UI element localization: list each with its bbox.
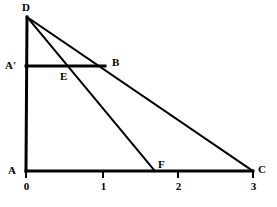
axis-tick-label-3: 3 — [249, 181, 258, 192]
point-label-Ap: A' — [5, 60, 16, 71]
point-label-B: B — [112, 57, 119, 68]
axis-tick-label-1: 1 — [99, 181, 108, 192]
axis-tick-label-2: 2 — [174, 181, 183, 192]
line-D-C — [27, 17, 253, 171]
line-D-F — [27, 17, 155, 171]
point-label-F: F — [158, 159, 165, 170]
point-label-C: C — [258, 164, 266, 175]
point-label-A: A — [8, 165, 16, 176]
axis-tick-label-0: 0 — [22, 181, 31, 192]
segments-group — [26, 17, 253, 171]
point-label-D: D — [22, 2, 30, 13]
vertical-axis-AD — [26, 17, 27, 171]
diagram-canvas — [0, 0, 277, 207]
geometry-figure: DAA'BEFC 0123 — [0, 0, 277, 207]
point-label-E: E — [60, 71, 67, 82]
